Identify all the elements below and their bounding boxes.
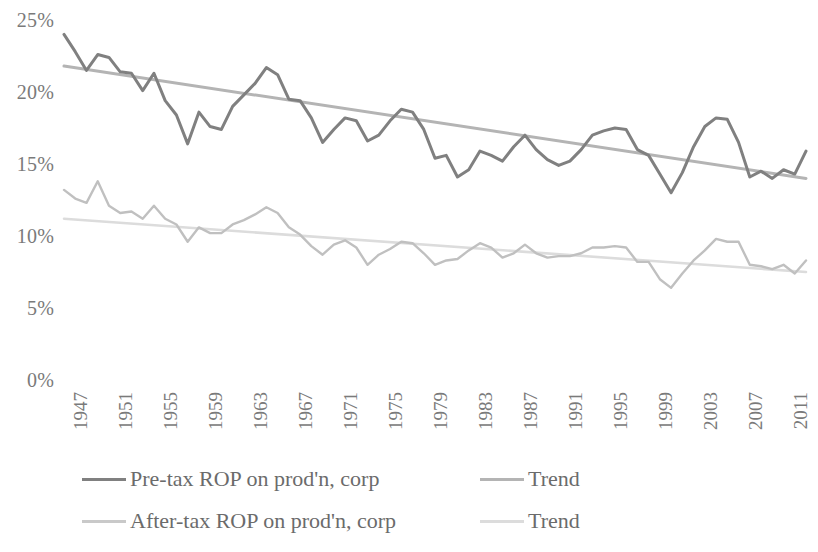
x-axis-tick-label: 2007 — [746, 392, 765, 430]
x-axis-tick-label: 1999 — [656, 392, 675, 430]
x-axis-tick-label: 1987 — [521, 392, 540, 430]
series-line-after-tax-rop-on-prod-n-corp — [64, 181, 806, 288]
legend-line-swatch-icon — [82, 520, 126, 523]
y-axis-tick-label: 25% — [17, 10, 54, 30]
series-line-pre-tax-rop-on-prod-n-corp — [64, 34, 806, 192]
y-axis-tick-label: 20% — [17, 82, 54, 102]
y-axis-tick-label: 5% — [27, 298, 54, 318]
chart-legend: Pre-tax ROP on prod'n, corpTrendAfter-ta… — [0, 468, 818, 552]
series-line-pre-tax-trend — [64, 66, 806, 178]
legend-item[interactable]: Trend — [480, 468, 580, 490]
legend-item[interactable]: Pre-tax ROP on prod'n, corp — [82, 468, 379, 490]
plot-svg — [62, 0, 818, 390]
legend-line-swatch-icon — [480, 520, 524, 523]
y-axis-tick-label: 0% — [27, 370, 54, 390]
x-axis-tick-label: 1951 — [116, 392, 135, 430]
legend-line-swatch-icon — [82, 478, 126, 481]
legend-item-label: Trend — [528, 510, 580, 532]
x-axis-tick-label: 1995 — [611, 392, 630, 430]
x-axis-tick-label: 1959 — [206, 392, 225, 430]
y-axis-tick-label: 15% — [17, 154, 54, 174]
x-axis-tick-label: 1971 — [341, 392, 360, 430]
x-axis-tick-label: 1979 — [431, 392, 450, 430]
x-axis-tick-label: 2011 — [791, 392, 810, 429]
x-axis: 1947195119551959196319671971197519791983… — [62, 390, 818, 470]
x-axis-tick-label: 1967 — [296, 392, 315, 430]
legend-line-swatch-icon — [480, 478, 524, 481]
legend-item[interactable]: Trend — [480, 510, 580, 532]
legend-item[interactable]: After-tax ROP on prod'n, corp — [82, 510, 396, 532]
x-axis-tick-label: 1983 — [476, 392, 495, 430]
line-chart: 0%5%10%15%20%25% 19471951195519591963196… — [0, 0, 818, 552]
y-axis: 0%5%10%15%20%25% — [0, 0, 62, 400]
y-axis-tick-label: 10% — [17, 226, 54, 246]
x-axis-tick-label: 2003 — [701, 392, 720, 430]
legend-item-label: Pre-tax ROP on prod'n, corp — [130, 468, 379, 490]
legend-item-label: After-tax ROP on prod'n, corp — [130, 510, 396, 532]
legend-item-label: Trend — [528, 468, 580, 490]
plot-area — [62, 0, 818, 390]
x-axis-tick-label: 1955 — [161, 392, 180, 430]
x-axis-tick-label: 1975 — [386, 392, 405, 430]
x-axis-tick-label: 1963 — [251, 392, 270, 430]
x-axis-tick-label: 1947 — [71, 392, 90, 430]
x-axis-tick-label: 1991 — [566, 392, 585, 430]
